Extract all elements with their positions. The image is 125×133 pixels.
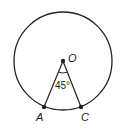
point-A	[42, 105, 46, 109]
label-A: A	[35, 111, 43, 123]
angle-arc	[58, 72, 67, 73]
center-point	[61, 59, 65, 63]
point-C	[79, 105, 83, 109]
label-O: O	[68, 52, 77, 64]
circle-diagram: O 45° A C	[0, 0, 125, 133]
label-C: C	[81, 111, 89, 123]
angle-label: 45°	[55, 80, 70, 91]
